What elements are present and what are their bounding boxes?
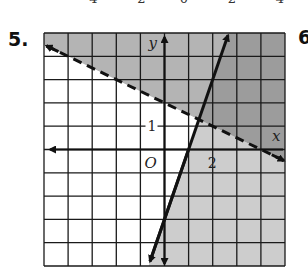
y-axis-label: y — [148, 34, 158, 52]
x-axis-label: x — [272, 127, 281, 145]
x-tick-label: 2 — [208, 155, 217, 171]
y-tick-label: 1 — [148, 118, 157, 134]
origin-label: O — [145, 154, 157, 172]
inequality-graph: y x O 1 2 — [0, 0, 308, 279]
